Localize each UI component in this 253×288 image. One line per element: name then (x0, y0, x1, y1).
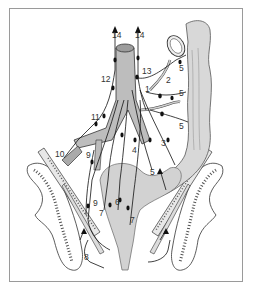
label-8: 8 (84, 252, 89, 262)
label-5: 5 (179, 88, 184, 98)
lymphatic-diagram: 14 14 12 13 1 2 5 5 5 5 11 3 4 10 9 9 6 … (0, 0, 253, 288)
label-14: 14 (112, 30, 122, 40)
label-5: 5 (150, 167, 155, 177)
label-5: 5 (179, 121, 184, 131)
arrow-up-icon (157, 168, 163, 174)
label-9: 9 (93, 198, 98, 208)
left-pelvic-bone (27, 148, 104, 270)
label-1: 1 (145, 84, 150, 94)
label-2: 2 (166, 75, 171, 85)
label-12: 12 (101, 74, 111, 84)
label-9: 9 (86, 150, 91, 160)
label-11: 11 (91, 112, 100, 122)
label-7: 7 (130, 215, 135, 225)
label-3: 3 (161, 138, 166, 148)
label-10: 10 (55, 149, 65, 159)
label-6: 6 (115, 197, 120, 207)
label-7: 7 (99, 208, 104, 218)
label-13: 13 (142, 66, 152, 76)
aorta-and-iliac-vessels (62, 44, 180, 170)
label-4: 4 (132, 145, 137, 155)
label-5: 5 (179, 63, 184, 73)
label-14: 14 (135, 30, 145, 40)
